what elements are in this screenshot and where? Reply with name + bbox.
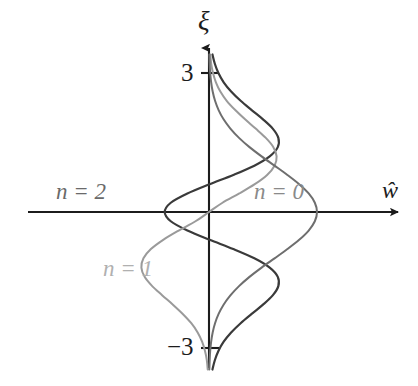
series-label-n0: n = 0	[254, 180, 304, 203]
oscillator-wavefunction-figure: ξ ŵ 3 −3 n = 0 n = 1 n = 2	[0, 0, 418, 386]
tick-label-positive-3: 3	[181, 60, 194, 85]
tick-label-negative-3: −3	[167, 334, 194, 359]
series-label-n2: n = 2	[56, 180, 106, 203]
w-hat-axis-label: ŵ	[382, 178, 398, 202]
series-label-n1: n = 1	[103, 257, 153, 280]
xi-axis-label: ξ	[198, 8, 210, 35]
